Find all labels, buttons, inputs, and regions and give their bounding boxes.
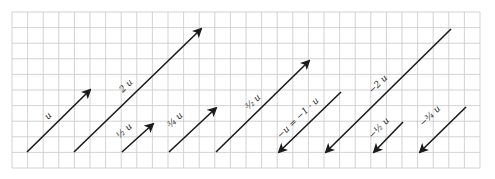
vector-arrow [74,29,201,152]
vectors-group: u2 u½ u¾ u³⁄₂ u−u = −1 · u−2 u−½ u−¾ u [27,29,466,152]
vector-neg-u: −u = −1 · u [275,92,341,152]
vector-3quarter-u: ¾ u [165,108,216,152]
vector-label: 2 u [117,77,135,95]
vector-label: −¾ u [417,103,442,128]
vector-label: u [42,110,53,121]
vector-2u: 2 u [74,29,201,152]
vector-arrow [326,29,451,152]
vector-neg-3quarter-u: −¾ u [417,103,466,152]
vector-label: −2 u [367,72,390,95]
vector-diagram: u2 u½ u¾ u³⁄₂ u−u = −1 · u−2 u−½ u−¾ u [0,0,495,179]
vector-neg-2u: −2 u [326,29,451,152]
vector-label: ½ u [114,121,134,140]
